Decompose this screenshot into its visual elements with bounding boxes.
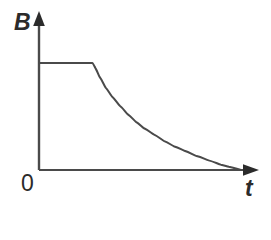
physics-graph-figure: B t 0 xyxy=(0,0,271,240)
decay-curve xyxy=(39,63,241,170)
x-axis-label: t xyxy=(245,177,253,200)
origin-label: 0 xyxy=(21,172,34,195)
y-axis-label: B xyxy=(14,11,31,34)
arrow-up-icon xyxy=(33,11,45,26)
graph-canvas xyxy=(0,0,271,240)
